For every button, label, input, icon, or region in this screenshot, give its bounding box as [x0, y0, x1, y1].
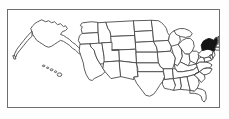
us-map-svg [8, 10, 219, 107]
state-wyoming[interactable] [111, 35, 136, 50]
state-south-dakota[interactable] [135, 31, 154, 43]
state-kansas[interactable] [136, 52, 158, 63]
state-hawaii[interactable] [42, 65, 61, 76]
state-arkansas[interactable] [164, 69, 174, 80]
state-minnesota[interactable] [152, 20, 170, 41]
state-oregon[interactable] [78, 33, 99, 45]
us-map-figure: United States map with one state highlig… [0, 0, 229, 119]
map-frame-border [7, 9, 220, 108]
state-washington[interactable] [80, 22, 98, 34]
state-missouri[interactable] [158, 51, 176, 69]
state-alaska[interactable] [13, 20, 83, 59]
state-arizona[interactable] [103, 61, 121, 79]
state-montana[interactable] [106, 21, 135, 37]
state-north-dakota[interactable] [134, 20, 153, 31]
state-connecticut[interactable] [215, 47, 219, 50]
state-texas[interactable] [134, 72, 165, 96]
